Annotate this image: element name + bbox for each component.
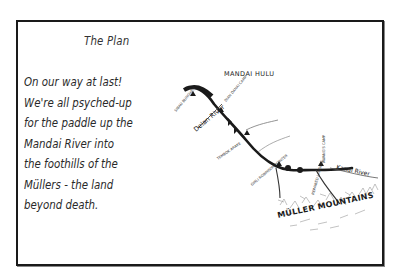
card-body: On our way at last! We're all psyched-up… [24,72,172,216]
postcard-frame: The Plan On our way at last! We're all p… [16,20,384,266]
body-line: the foothills of the [24,154,172,175]
card-title: The Plan [84,34,129,48]
body-line: beyond death. [24,195,172,216]
body-line: We're all psyched-up [24,93,172,114]
body-line: Müllers - the land [24,175,172,196]
body-line: for the paddle up the [24,113,172,134]
body-line: Mandai River into [24,134,172,155]
body-line: On our way at last! [24,72,172,93]
